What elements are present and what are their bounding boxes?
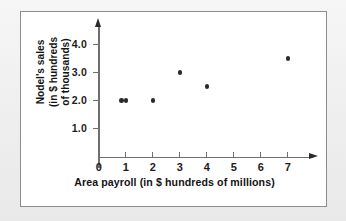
y-axis-title-line-3: of thousands) xyxy=(60,38,72,105)
x-tick-mark xyxy=(287,152,288,158)
y-axis-title: Nodel's sales (in $ hundreds of thousand… xyxy=(32,6,76,138)
y-tick-mark xyxy=(93,44,99,45)
x-axis-arrow-icon xyxy=(309,153,318,159)
x-tick-label: 2 xyxy=(142,161,164,173)
y-axis-title-line-2: (in $ hundreds xyxy=(48,37,60,107)
x-tick-mark xyxy=(260,152,261,158)
x-tick-mark xyxy=(125,152,126,158)
x-tick-mark xyxy=(152,152,153,158)
data-point xyxy=(286,56,291,61)
x-tick-label: 3 xyxy=(169,161,191,173)
data-point xyxy=(178,70,183,75)
y-tick-mark xyxy=(93,100,99,101)
figure-frame: 1.02.03.04.0 01234567 Nodel's sales (in … xyxy=(20,11,327,207)
y-axis-arrow-icon xyxy=(95,18,101,27)
x-tick-mark xyxy=(98,152,99,158)
data-point xyxy=(124,98,129,103)
y-axis-line xyxy=(98,26,100,168)
data-point xyxy=(151,98,156,103)
x-tick-label: 1 xyxy=(115,161,137,173)
x-axis-title: Area payroll (in $ hundreds of millions) xyxy=(21,176,328,188)
x-tick-mark xyxy=(233,152,234,158)
x-tick-label: 4 xyxy=(196,161,218,173)
y-axis-title-line-1: Nodel's sales xyxy=(35,40,47,105)
scatter-plot: 1.02.03.04.0 01234567 Nodel's sales (in … xyxy=(21,12,328,208)
x-tick-label: 0 xyxy=(88,161,110,173)
data-point xyxy=(205,84,210,89)
x-tick-mark xyxy=(206,152,207,158)
y-tick-mark xyxy=(93,72,99,73)
y-tick-mark xyxy=(93,128,99,129)
x-tick-mark xyxy=(179,152,180,158)
x-tick-label: 6 xyxy=(250,161,272,173)
x-tick-label: 7 xyxy=(277,161,299,173)
x-tick-label: 5 xyxy=(223,161,245,173)
